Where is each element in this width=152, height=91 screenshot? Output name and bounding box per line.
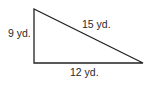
horizontal-side-label: 12 yd. xyxy=(70,66,99,78)
triangle-diagram: 9 yd. 15 yd. 12 yd. xyxy=(0,0,152,91)
vertical-side-label: 9 yd. xyxy=(8,27,31,39)
hypotenuse-label: 15 yd. xyxy=(82,18,111,30)
